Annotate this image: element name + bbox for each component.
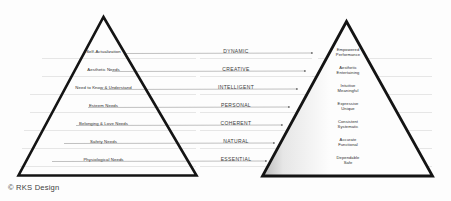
diagram-canvas: Self-Actualization Aesthetic Needs Need …: [0, 0, 451, 201]
connector-arrows: [52, 53, 313, 162]
copyright-credit: © RKS Design: [8, 183, 59, 192]
pyramid-diagram-graphic: [0, 0, 451, 201]
right-pyramid-outline: [263, 22, 433, 177]
left-pyramid-outline: [19, 17, 197, 176]
